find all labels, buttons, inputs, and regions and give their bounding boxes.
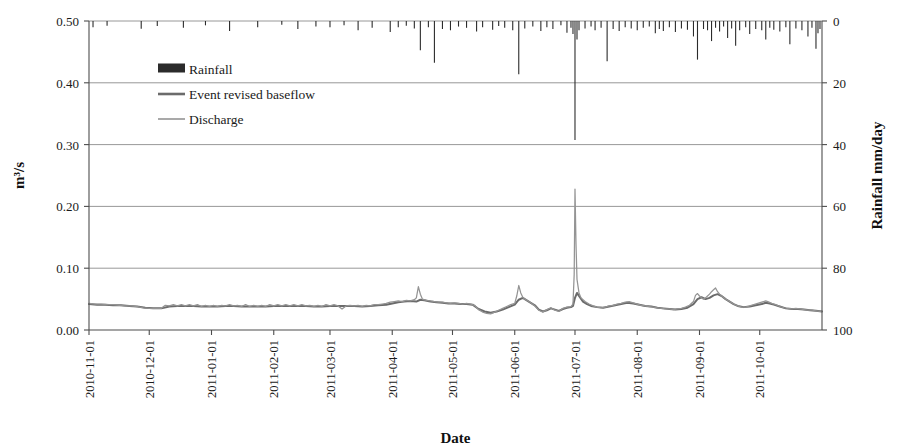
x-axis-tick-label: 2010-12-01 (143, 340, 157, 398)
y2-axis-tick-label: 0 (833, 14, 840, 29)
y-axis-tick-label: 0.50 (56, 14, 79, 29)
legend-label: Discharge (189, 112, 243, 127)
y2-axis-tick-label: 20 (833, 76, 846, 91)
x-axis-tick-label: 2011-06-01 (508, 340, 522, 398)
y2-axis-tick-label: 40 (833, 138, 846, 153)
x-axis-tick-label: 2011-09-01 (693, 340, 707, 398)
x-axis-tick-label: 2011-04-01 (386, 340, 400, 398)
y2-axis-tick-label: 60 (833, 199, 846, 214)
y-axis-title: m³/s (11, 162, 27, 189)
x-axis-tick-label: 2011-07-01 (569, 340, 583, 398)
y2-axis-title: Rainfall mm/day (869, 121, 885, 229)
y-axis-tick-label: 0.30 (56, 138, 79, 153)
x-axis-tick-label: 2011-10-01 (753, 340, 767, 398)
legend-label: Event revised baseflow (189, 87, 315, 102)
legend-label: Rainfall (189, 62, 233, 77)
y-axis-tick-label: 0.20 (56, 199, 79, 214)
y2-axis-tick-label: 100 (833, 323, 853, 338)
y-axis-tick-label: 0.40 (56, 76, 79, 91)
x-axis-tick-label: 2011-05-01 (446, 340, 460, 398)
x-axis-tick-label: 2011-08-01 (631, 340, 645, 398)
y-axis-tick-label: 0.00 (56, 323, 79, 338)
x-axis-title: Date (441, 430, 471, 446)
x-axis-tick-label: 2011-02-01 (267, 340, 281, 398)
x-axis-tick-label: 2011-03-01 (324, 340, 338, 398)
y2-axis-tick-label: 80 (833, 261, 846, 276)
hydrograph-chart: 0.000.100.200.300.400.50 020406080100 20… (0, 0, 905, 448)
y-axis-tick-label: 0.10 (56, 261, 79, 276)
x-axis-tick-label: 2010-11-01 (83, 340, 97, 398)
x-axis-tick-label: 2011-01-01 (205, 340, 219, 398)
legend-swatch-rainfall (158, 64, 185, 73)
chart-figure: 0.000.100.200.300.400.50 020406080100 20… (0, 0, 905, 448)
